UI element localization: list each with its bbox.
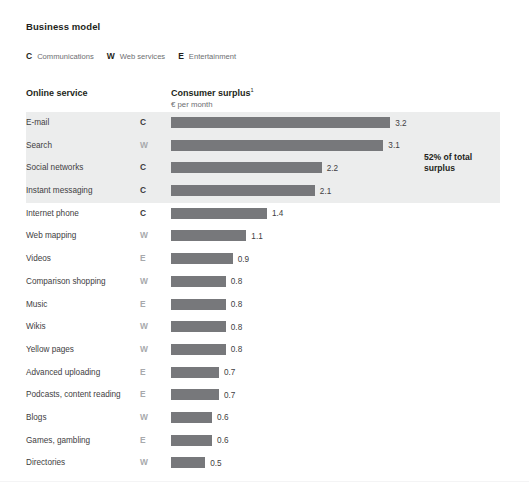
bar [171, 344, 226, 355]
chart-row: MusicE0.8 [0, 294, 529, 317]
row-business-model-key: W [140, 322, 148, 330]
row-label-service: Wikis [26, 322, 46, 331]
chart-row: Advanced uploadingE0.7 [0, 362, 529, 385]
bar [171, 230, 246, 241]
row-business-model-key: W [140, 231, 148, 239]
row-business-model-key: C [140, 163, 146, 171]
bar-value-label: 3.2 [395, 118, 406, 129]
row-label-service: Games, gambling [26, 436, 90, 445]
row-label-service: Videos [26, 254, 51, 263]
legend-key-web-services: W [107, 51, 115, 61]
column-header-consumer-surplus-unit: € per month [171, 100, 254, 109]
chart-row: Games, gamblingE0.6 [0, 430, 529, 453]
bar-value-label: 0.8 [231, 276, 242, 287]
row-label-service: Yellow pages [26, 345, 74, 354]
bar-value-label: 0.8 [231, 322, 242, 333]
chart-row: Internet phoneC1.4 [0, 203, 529, 226]
row-label-service: Comparison shopping [26, 277, 106, 286]
bar-value-label: 0.7 [224, 390, 235, 401]
bar-value-label: 0.8 [231, 344, 242, 355]
chart-rows: E-mailC3.2SearchW3.1Social networksC2.2I… [0, 112, 529, 475]
bar [171, 185, 315, 196]
chart-row: DirectoriesW0.5 [0, 452, 529, 475]
legend-label-communications: Communications [37, 52, 94, 61]
legend-label-web-services: Web services [120, 52, 165, 61]
footnote-marker: 1 [251, 87, 254, 93]
bar [171, 117, 390, 128]
chart-row: BlogsW0.6 [0, 407, 529, 430]
row-business-model-key: W [140, 458, 148, 466]
row-business-model-key: C [140, 209, 146, 217]
bar [171, 367, 219, 378]
chart-row: Web mappingW1.1 [0, 225, 529, 248]
row-business-model-key: E [140, 390, 146, 398]
legend-item-web-services: W Web services [107, 51, 165, 61]
chart-row: VideosE0.9 [0, 248, 529, 271]
bar [171, 457, 205, 468]
row-label-service: Music [26, 300, 47, 309]
bar-value-label: 0.6 [217, 435, 228, 446]
legend-key-entertainment: E [178, 51, 184, 61]
business-model-legend: C Communications W Web services E Entert… [26, 51, 249, 61]
bar [171, 140, 383, 151]
bar [171, 389, 219, 400]
chart-row: Podcasts, content readingE0.7 [0, 384, 529, 407]
row-label-service: Podcasts, content reading [26, 390, 121, 399]
column-header-consumer-surplus-title: Consumer surplus1 [171, 88, 254, 98]
bar [171, 412, 212, 423]
row-label-service: Instant messaging [26, 186, 92, 195]
chart-row: Yellow pagesW0.8 [0, 339, 529, 362]
row-business-model-key: W [140, 345, 148, 353]
chart-row: Instant messagingC2.1 [0, 180, 529, 203]
legend-item-communications: C Communications [26, 51, 94, 61]
bar-value-label: 0.5 [210, 458, 221, 469]
row-label-service: E-mail [26, 118, 49, 127]
section-title: Business model [26, 21, 100, 32]
bar-value-label: 0.9 [238, 254, 249, 265]
row-business-model-key: C [140, 186, 146, 194]
bar-value-label: 2.2 [327, 163, 338, 174]
bar-value-label: 1.4 [272, 208, 283, 219]
chart-row: E-mailC3.2 [0, 112, 529, 135]
row-business-model-key: E [140, 368, 146, 376]
bar [171, 299, 226, 310]
chart-row: Social networksC2.2 [0, 157, 529, 180]
chart-page: Business model C Communications W Web se… [0, 0, 529, 490]
bar [171, 321, 226, 332]
bar-value-label: 0.7 [224, 367, 235, 378]
bar-value-label: 3.1 [388, 140, 399, 151]
bar-value-label: 2.1 [320, 186, 331, 197]
row-label-service: Search [26, 141, 52, 150]
row-label-service: Directories [26, 458, 65, 467]
row-business-model-key: E [140, 436, 146, 444]
row-label-service: Advanced uploading [26, 368, 100, 377]
row-business-model-key: W [140, 141, 148, 149]
column-header-consumer-surplus-text: Consumer surplus [171, 88, 251, 98]
bar-value-label: 0.6 [217, 412, 228, 423]
bar [171, 276, 226, 287]
chart-row: Comparison shoppingW0.8 [0, 271, 529, 294]
row-business-model-key: C [140, 118, 146, 126]
column-header-online-service: Online service [26, 88, 88, 98]
row-business-model-key: E [140, 300, 146, 308]
legend-item-entertainment: E Entertainment [178, 51, 236, 61]
bar-value-label: 1.1 [251, 231, 262, 242]
row-business-model-key: W [140, 277, 148, 285]
bar [171, 253, 233, 264]
chart-row: SearchW3.1 [0, 135, 529, 158]
legend-label-entertainment: Entertainment [189, 52, 236, 61]
row-label-service: Internet phone [26, 209, 79, 218]
bar [171, 208, 267, 219]
bar [171, 162, 322, 173]
row-business-model-key: E [140, 254, 146, 262]
row-label-service: Web mapping [26, 231, 76, 240]
row-label-service: Social networks [26, 163, 83, 172]
bar [171, 435, 212, 446]
chart-row: WikisW0.8 [0, 316, 529, 339]
legend-key-communications: C [26, 51, 32, 61]
row-label-service: Blogs [26, 413, 46, 422]
bar-value-label: 0.8 [231, 299, 242, 310]
column-header-consumer-surplus: Consumer surplus1 € per month [171, 88, 254, 109]
footer-divider [0, 481, 529, 482]
row-business-model-key: W [140, 413, 148, 421]
